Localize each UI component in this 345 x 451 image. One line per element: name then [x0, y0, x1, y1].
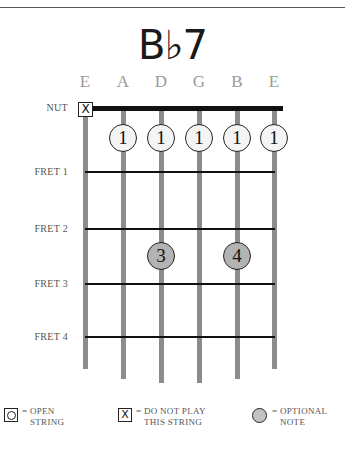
chord-title: B♭7 — [0, 22, 345, 68]
legend-mute-text: = DO NOT PLAY THIS STRING — [136, 406, 206, 428]
finger-dot-b-fret3: 4 — [223, 242, 251, 270]
fret-label-4: FRET 4 — [0, 331, 68, 342]
string-label-b: B — [222, 72, 252, 92]
legend-mute-line2: THIS STRING — [136, 417, 206, 428]
fret-label-3: FRET 3 — [0, 278, 68, 289]
string-label-low-e: E — [70, 72, 100, 92]
open-string-icon — [4, 408, 18, 422]
fret-line-3 — [85, 283, 275, 285]
string-label-high-e: E — [259, 72, 289, 92]
fret-line-2 — [85, 228, 275, 230]
legend-mute-line1: = DO NOT PLAY — [136, 406, 206, 417]
legend-optional-line2: NOTE — [272, 417, 327, 428]
legend-open-line2: STRING — [22, 417, 64, 428]
legend-optional-line1: = OPTIONAL — [272, 406, 327, 417]
fret-label-2: FRET 2 — [0, 223, 68, 234]
nut-label: NUT — [0, 102, 68, 113]
nut — [85, 106, 283, 111]
optional-note-icon — [252, 408, 267, 423]
finger-dot-d-fret3: 3 — [147, 242, 175, 270]
mute-string-icon: X — [118, 408, 132, 422]
top-rule — [0, 7, 345, 8]
finger-dot-e-fret1: 1 — [260, 124, 288, 152]
finger-dot-g-fret1: 1 — [185, 124, 213, 152]
fret-line-4 — [85, 336, 275, 338]
fret-label-1: FRET 1 — [0, 166, 68, 177]
finger-dot-a-fret1: 1 — [109, 124, 137, 152]
legend-open-line1: = OPEN — [22, 406, 64, 417]
finger-dot-b-fret1: 1 — [223, 124, 251, 152]
string-label-d: D — [146, 72, 176, 92]
legend-open-text: = OPEN STRING — [22, 406, 64, 428]
string-label-g: G — [184, 72, 214, 92]
string-low-e — [83, 110, 88, 369]
string-label-a: A — [108, 72, 138, 92]
legend-optional-text: = OPTIONAL NOTE — [272, 406, 327, 428]
mute-marker-icon: X — [78, 102, 93, 117]
fret-line-1 — [85, 171, 275, 173]
finger-dot-d-fret1: 1 — [147, 124, 175, 152]
